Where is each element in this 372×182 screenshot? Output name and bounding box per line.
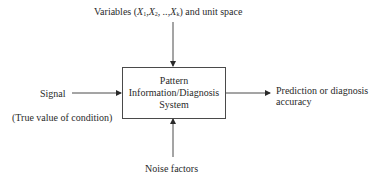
variables-prefix: Variables ( [94, 6, 137, 17]
signal-note: (True value of condition) [12, 112, 112, 123]
var-x2: ,X [146, 6, 155, 17]
system-line-2: Information/Diagnosis [123, 87, 225, 99]
variables-label: Variables (X1,X2, ..,Xk) and unit space [94, 6, 242, 20]
system-line-3: System [123, 99, 225, 111]
system-box-text: Pattern Information/Diagnosis System [123, 75, 225, 111]
system-line-1: Pattern [123, 75, 225, 87]
output-line-1: Prediction or diagnosis [276, 85, 368, 96]
signal-label: Signal [40, 88, 66, 99]
variables-suffix: ) and unit space [179, 6, 242, 17]
noise-label: Noise factors [145, 163, 198, 174]
output-label: Prediction or diagnosis accuracy [276, 85, 368, 107]
output-line-2: accuracy [276, 96, 368, 107]
system-box: Pattern Information/Diagnosis System [122, 67, 226, 119]
var-xk: , ..,X [158, 6, 177, 17]
